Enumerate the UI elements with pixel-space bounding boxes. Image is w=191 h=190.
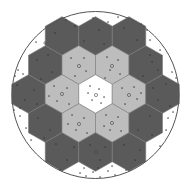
scatter-dot: [137, 129, 138, 130]
scatter-dot: [165, 129, 166, 130]
scatter-dot: [106, 56, 107, 57]
scatter-dot: [98, 29, 99, 30]
scatter-dot: [70, 57, 71, 58]
scatter-dot: [123, 27, 124, 28]
scatter-dot: [56, 100, 57, 101]
scatter-dot: [36, 59, 37, 60]
scatter-dot: [109, 69, 110, 70]
scatter-dot: [120, 130, 121, 131]
hex-cells: [12, 17, 180, 172]
scatter-dot: [167, 117, 168, 118]
scatter-dot: [123, 144, 124, 145]
scatter-dot: [83, 117, 84, 118]
scatter-dot: [55, 143, 56, 144]
scatter-dot: [171, 71, 172, 72]
scatter-dot: [99, 159, 100, 160]
scatter-dot: [43, 137, 44, 138]
scatter-dot: [107, 170, 108, 171]
scatter-dot: [16, 84, 17, 85]
scatter-dot: [68, 103, 69, 104]
scatter-dot: [74, 75, 75, 76]
scatter-dot: [119, 73, 120, 74]
scatter-dot: [83, 167, 84, 168]
scatter-dot: [149, 39, 150, 40]
scatter-dot: [83, 40, 84, 41]
scatter-dot: [53, 85, 54, 86]
scatter-dot: [125, 169, 126, 170]
scatter-dot: [157, 99, 158, 100]
scatter-dot: [65, 19, 66, 20]
scatter-dot: [152, 87, 153, 88]
scatter-dot: [149, 54, 150, 55]
scatter-dot: [86, 132, 87, 133]
scatter-dot: [151, 134, 152, 135]
scatter-dot: [30, 139, 31, 140]
scatter-dot: [104, 146, 105, 147]
scatter-dot: [24, 99, 25, 100]
scatter-dot: [103, 125, 104, 126]
scatter-dot: [151, 61, 152, 62]
scatter-dot: [172, 111, 173, 112]
scatter-dot: [136, 98, 137, 99]
scatter-dot: [37, 117, 38, 118]
scatter-dot: [67, 123, 68, 124]
scatter-dot: [47, 54, 48, 55]
scatter-dot: [48, 95, 49, 96]
scatter-dot: [71, 114, 72, 115]
diagram-svg: [0, 0, 191, 190]
scatter-dot: [103, 96, 104, 97]
scatter-dot: [117, 16, 118, 17]
scatter-dot: [19, 107, 20, 108]
scatter-dot: [49, 129, 50, 130]
scatter-dot: [169, 105, 170, 106]
scatter-dot: [139, 149, 140, 150]
scatter-dot: [134, 159, 135, 160]
scatter-dot: [165, 83, 166, 84]
scatter-dot: [92, 17, 93, 18]
scatter-dot: [87, 92, 88, 93]
scatter-dot: [117, 116, 118, 117]
scatter-dot: [40, 78, 41, 79]
scatter-dot: [75, 129, 76, 130]
scatter-dot: [91, 99, 92, 100]
scatter-dot: [149, 115, 150, 116]
scatter-dot: [133, 86, 134, 87]
scatter-dot: [25, 127, 26, 128]
scatter-dot: [35, 41, 36, 42]
scatter-dot: [124, 103, 125, 104]
scatter-dot: [22, 73, 23, 74]
scatter-dot: [140, 92, 141, 93]
scatter-dot: [73, 146, 74, 147]
scatter-dot: [103, 43, 104, 44]
scatter-dot: [99, 176, 100, 177]
scatter-dot: [19, 115, 20, 116]
scatter-dot: [85, 70, 86, 71]
hexagonal-array-diagram: [0, 0, 191, 190]
scatter-dot: [66, 87, 67, 88]
scatter-dot: [85, 175, 86, 176]
scatter-dot: [157, 69, 158, 70]
scatter-dot: [105, 114, 106, 115]
scatter-dot: [117, 59, 118, 60]
scatter-dot: [107, 21, 108, 22]
scatter-dot: [111, 165, 112, 166]
scatter-dot: [74, 25, 75, 26]
scatter-dot: [66, 159, 67, 160]
scatter-dot: [54, 32, 55, 33]
scatter-dot: [36, 103, 37, 104]
scatter-dot: [159, 49, 160, 50]
scatter-dot: [79, 172, 80, 173]
scatter-dot: [136, 39, 137, 40]
scatter-dot: [121, 87, 122, 88]
scatter-dot: [100, 102, 101, 103]
scatter-dot: [89, 85, 90, 86]
scatter-dot: [104, 77, 105, 78]
scatter-dot: [159, 145, 160, 146]
scatter-dot: [33, 89, 34, 90]
scatter-dot: [17, 69, 18, 70]
scatter-dot: [92, 171, 93, 172]
scatter-dot: [142, 75, 143, 76]
scatter-dot: [98, 88, 99, 89]
scatter-dot: [175, 77, 176, 78]
scatter-dot: [97, 167, 98, 168]
